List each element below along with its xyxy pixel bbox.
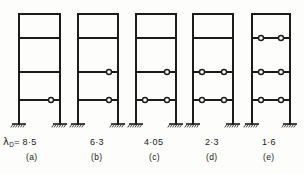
support-hatch-frame-e-right — [282, 124, 284, 127]
frame-c — [128, 14, 183, 127]
frame-e-hinge-3 — [259, 70, 264, 75]
support-hatch-frame-b-left — [70, 124, 72, 127]
frame-a-hinge-1 — [49, 98, 54, 103]
frame-e — [244, 14, 297, 127]
frame-c-hinge-1 — [143, 98, 148, 103]
support-hatch-frame-a-left — [11, 124, 13, 127]
caption-frame-c: (c) — [149, 152, 160, 162]
frame-diagram-figure: λD= 8·5 (a) 6·3 (b) 4·05 (c) 2·3 (d) 1·6… — [0, 0, 304, 174]
support-hatch-frame-a-right — [52, 124, 54, 127]
caption-frame-e: (e) — [263, 152, 274, 162]
support-hatch-frame-d-right — [225, 124, 227, 127]
lambda-value-c: 4·05 — [144, 137, 163, 147]
frame-d-hinge-2 — [222, 98, 227, 103]
frame-d — [185, 14, 240, 127]
lambda-value-d: 2·3 — [205, 137, 219, 147]
frame-d-hinge-4 — [222, 70, 227, 75]
support-hatch-frame-c-left — [128, 124, 130, 127]
lambda-value-e: 1·6 — [262, 137, 276, 147]
support-hatch-frame-b-right — [110, 124, 112, 127]
support-hatch-frame-c-right — [168, 124, 170, 127]
frame-e-hinge-6 — [279, 36, 284, 41]
frame-d-hinge-1 — [200, 98, 205, 103]
support-hatch-frame-e-left — [244, 124, 246, 127]
frame-b-hinge-2 — [107, 70, 112, 75]
frame-e-hinge-5 — [259, 36, 264, 41]
frame-e-hinge-4 — [279, 70, 284, 75]
lambda-value-a: = 8·5 — [14, 137, 36, 147]
frame-e-hinge-1 — [259, 98, 264, 103]
frame-b — [70, 14, 125, 127]
caption-frame-b: (b) — [91, 152, 102, 162]
frame-a — [11, 14, 67, 127]
caption-frame-a: (a) — [26, 152, 37, 162]
frame-c-hinge-2 — [165, 98, 170, 103]
support-hatch-frame-d-left — [185, 124, 187, 127]
caption-frame-d: (d) — [206, 152, 217, 162]
frame-b-hinge-1 — [107, 98, 112, 103]
frames-drawing — [0, 0, 304, 174]
frame-e-hinge-2 — [279, 98, 284, 103]
frame-d-hinge-3 — [200, 70, 205, 75]
lambda-label-frame-a: λD= 8·5 — [3, 137, 36, 150]
frame-c-hinge-3 — [165, 70, 170, 75]
lambda-value-b: 6·3 — [90, 137, 104, 147]
